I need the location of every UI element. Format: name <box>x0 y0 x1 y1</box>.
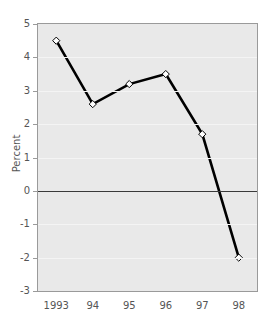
data-line <box>56 41 239 258</box>
gridline <box>38 91 257 92</box>
y-tick-label: -3 <box>4 286 30 296</box>
y-tick-mark <box>33 124 37 125</box>
plot-area <box>37 23 258 292</box>
y-tick-label: -2 <box>4 253 30 263</box>
x-tick-label: 95 <box>109 301 149 311</box>
y-tick-label: 0 <box>4 186 30 196</box>
y-tick-mark <box>33 91 37 92</box>
y-tick-label: -1 <box>4 219 30 229</box>
y-tick-label: 1 <box>4 153 30 163</box>
zero-line <box>38 191 257 192</box>
x-tick-label: 96 <box>146 301 186 311</box>
gridline <box>38 57 257 58</box>
y-tick-mark <box>33 258 37 259</box>
y-tick-mark <box>33 57 37 58</box>
x-tick-label: 94 <box>73 301 113 311</box>
y-tick-mark <box>33 224 37 225</box>
gridline <box>38 124 257 125</box>
x-tick-label: 1993 <box>36 301 76 311</box>
line-chart: Percent 543210-1-2-319939495969798 <box>0 0 272 321</box>
y-tick-mark <box>33 191 37 192</box>
chart-title-clipped <box>0 0 272 5</box>
y-tick-mark <box>33 158 37 159</box>
y-tick-label: 4 <box>4 52 30 62</box>
y-tick-mark <box>33 24 37 25</box>
gridline <box>38 258 257 259</box>
gridline <box>38 158 257 159</box>
gridline <box>38 224 257 225</box>
y-tick-label: 2 <box>4 119 30 129</box>
y-tick-label: 5 <box>4 19 30 29</box>
x-tick-label: 97 <box>182 301 222 311</box>
y-tick-label: 3 <box>4 86 30 96</box>
x-tick-label: 98 <box>219 301 259 311</box>
y-tick-mark <box>33 291 37 292</box>
